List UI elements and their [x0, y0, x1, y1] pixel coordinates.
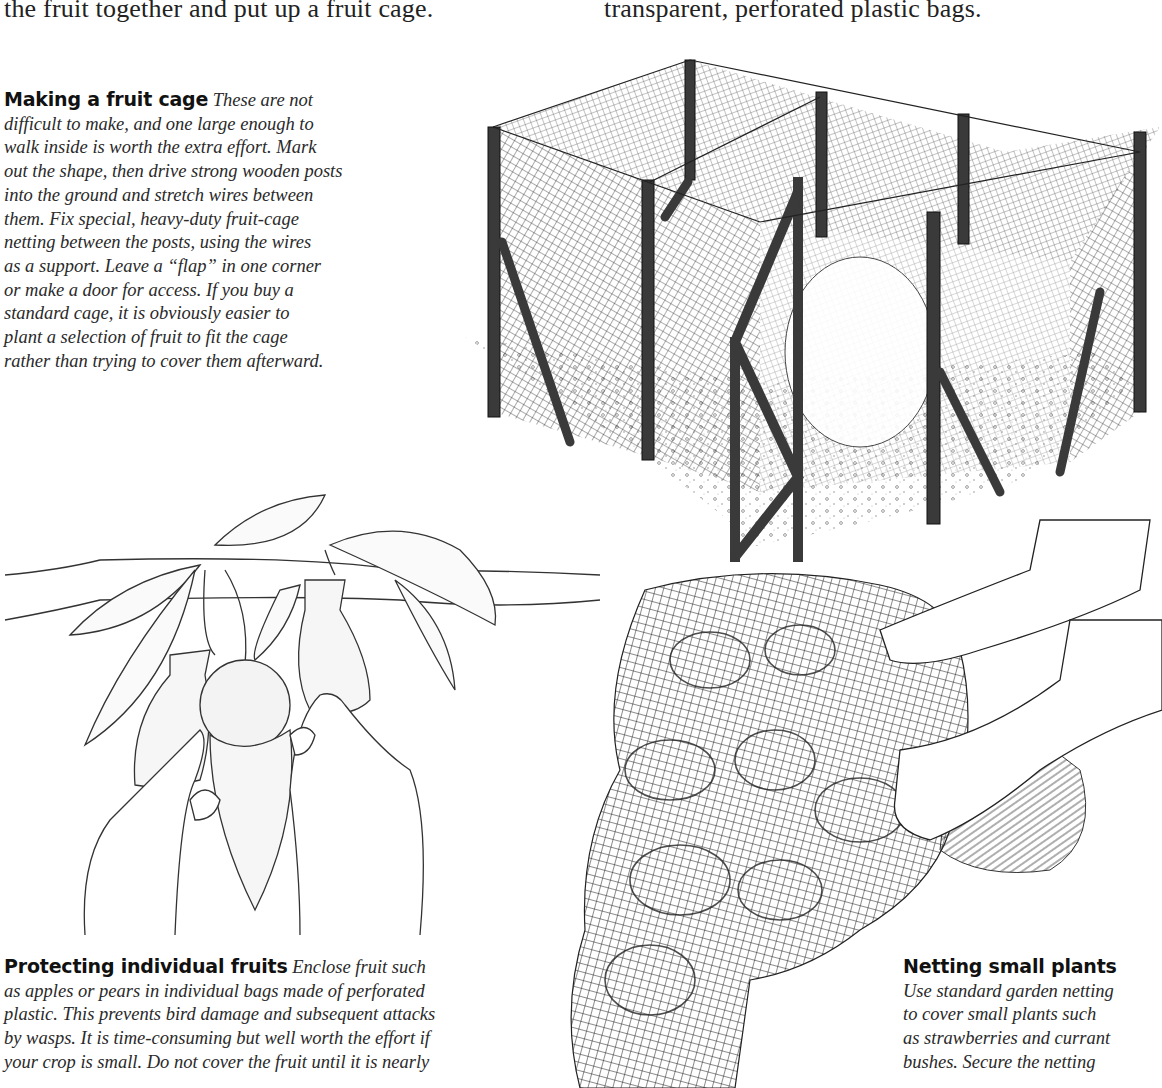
caption-netting-plants: Netting small plants Use standard garden…: [903, 955, 1162, 1075]
caption-line: Use standard garden netting: [903, 980, 1162, 1004]
caption-line: netting between the posts, using the wir…: [4, 231, 454, 255]
caption-line: into the ground and stretch wires betwee…: [4, 184, 454, 208]
caption-line: to cover small plants such: [903, 1003, 1162, 1027]
bagging-fruit-illustration: [0, 490, 605, 935]
caption-line: or make a door for access. If you buy a: [4, 279, 454, 303]
caption-text: Enclose fruit such: [292, 957, 426, 977]
caption-line: walk inside is worth the extra effort. M…: [4, 136, 454, 160]
caption-individual-fruits: Protecting individual fruits Enclose fru…: [4, 955, 564, 1075]
caption-heading: Netting small plants: [903, 955, 1117, 977]
caption-line: them. Fix special, heavy-duty fruit-cage: [4, 208, 454, 232]
caption-fruit-cage: Making a fruit cage These are not diffic…: [4, 88, 454, 373]
caption-line: as strawberries and currant: [903, 1027, 1162, 1051]
caption-line: difficult to make, and one large enough …: [4, 113, 454, 137]
body-text-right: transparent, perforated plastic bags.: [604, 0, 982, 24]
caption-line: by wasps. It is time-consuming but well …: [4, 1027, 564, 1051]
caption-heading: Making a fruit cage: [4, 88, 208, 110]
caption-line: your crop is small. Do not cover the fru…: [4, 1051, 564, 1075]
caption-line: plastic. This prevents bird damage and s…: [4, 1003, 564, 1027]
caption-heading: Protecting individual fruits: [4, 955, 288, 977]
caption-line: as a support. Leave a “flap” in one corn…: [4, 255, 454, 279]
body-text-left: the fruit together and put up a fruit ca…: [4, 0, 434, 24]
caption-line: bushes. Secure the netting: [903, 1051, 1162, 1075]
caption-line: rather than trying to cover them afterwa…: [4, 350, 454, 374]
caption-line: standard cage, it is obviously easier to: [4, 302, 454, 326]
caption-line: out the shape, then drive strong wooden …: [4, 160, 454, 184]
caption-line: as apples or pears in individual bags ma…: [4, 980, 564, 1004]
caption-line: plant a selection of fruit to fit the ca…: [4, 326, 454, 350]
caption-text: These are not: [213, 90, 313, 110]
